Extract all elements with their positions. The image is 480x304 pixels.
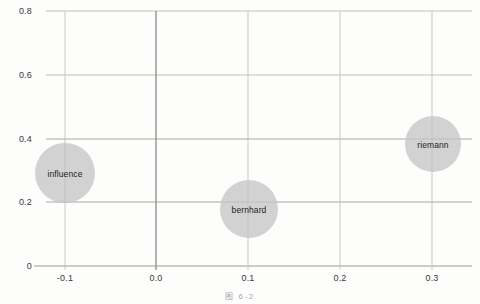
- y-tick-label-1: 0.6: [4, 70, 32, 80]
- y-tick-label-0: 0.8: [4, 6, 32, 16]
- x-tick-label-0: -0.1: [45, 273, 85, 283]
- x-tick-label-3: 0.2: [320, 273, 360, 283]
- y-tick-label-4: 0: [4, 261, 32, 271]
- x-tick-label-4: 0.3: [412, 273, 452, 283]
- bubble-chart: [0, 0, 480, 304]
- bubble-label-influence: influence: [40, 169, 90, 179]
- y-tick-label-3: 0.2: [4, 197, 32, 207]
- chart-screenshot: 0.8 0.6 0.4 0.2 0 -0.1 0.0 0.1 0.2 0.3 i…: [0, 0, 480, 304]
- bubble-label-bernhard: bernhard: [224, 205, 274, 215]
- figure-caption: 图 6-2: [0, 289, 480, 304]
- x-tick-label-2: 0.1: [228, 273, 268, 283]
- y-tick-label-2: 0.4: [4, 134, 32, 144]
- x-tick-label-1: 0.0: [136, 273, 176, 283]
- bubble-label-riemann: riemann: [408, 140, 458, 150]
